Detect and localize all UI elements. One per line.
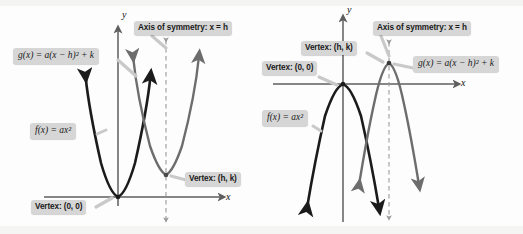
leader-vertex-origin xyxy=(96,198,112,207)
leader-g-function xyxy=(394,64,413,68)
left-panel-graph xyxy=(0,0,261,234)
y-axis-label: y xyxy=(347,4,351,15)
y-axis-label: y xyxy=(122,9,126,20)
panel-opens-upward: y x g(x) = a(x − h)² + k Axis of symmetr… xyxy=(0,0,261,234)
label-vertex-hk: Vertex: (h, k) xyxy=(185,172,241,186)
vertex-origin-dot xyxy=(341,82,346,87)
leader-vertex-hk xyxy=(367,53,383,62)
leader-vertex-hk xyxy=(171,176,186,180)
label-g-function: g(x) = a(x − h)² + k xyxy=(13,48,99,64)
leader-axis-of-symmetry xyxy=(152,36,166,48)
label-f-function: f(x) = ax² xyxy=(262,110,308,126)
label-f-function: f(x) = ax² xyxy=(30,123,76,139)
x-axis-label: x xyxy=(226,191,230,202)
label-vertex-origin: Vertex: (0, 0) xyxy=(31,200,86,214)
label-axis-of-symmetry: Axis of symmetry: x = h xyxy=(134,21,232,35)
vertex-hk-dot xyxy=(387,61,392,66)
label-axis-of-symmetry: Axis of symmetry: x = h xyxy=(373,21,471,35)
vertex-origin-dot xyxy=(116,195,121,200)
panel-opens-downward: y x Axis of symmetry: x = h Vertex: (h, … xyxy=(261,0,522,234)
label-vertex-origin: Vertex: (0, 0) xyxy=(262,61,317,75)
label-g-function: g(x) = a(x − h)² + k xyxy=(413,56,499,72)
figure-canvas: y x g(x) = a(x − h)² + k Axis of symmetr… xyxy=(0,0,523,234)
label-vertex-hk: Vertex: (h, k) xyxy=(301,41,357,55)
leader-f-function xyxy=(313,126,321,131)
vertex-hk-dot xyxy=(164,173,169,178)
x-axis-label: x xyxy=(461,77,465,88)
leader-axis-of-symmetry xyxy=(381,36,389,56)
leader-f-function xyxy=(97,130,106,134)
